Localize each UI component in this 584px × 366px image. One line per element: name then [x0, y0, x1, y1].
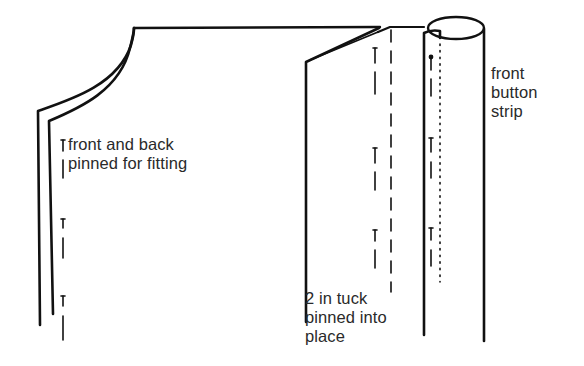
label-line: place: [305, 327, 387, 346]
strip-top-ellipse: [428, 17, 484, 39]
pin-icon: [61, 296, 65, 340]
pins-tuck: [373, 48, 377, 268]
label-front-back-pinned: front and back pinned for fitting: [68, 135, 187, 173]
label-line: 2 in tuck: [305, 289, 387, 308]
strip-left-edge: [424, 31, 440, 335]
tuck-fold-inner: [310, 32, 378, 60]
label-tuck-pinned: 2 in tuck pinned into place: [305, 289, 387, 346]
label-line: front: [491, 64, 537, 83]
sewing-diagram: [0, 0, 584, 366]
pins-strip: [429, 55, 433, 266]
label-line: pinned into: [305, 308, 387, 327]
pin-icon: [429, 228, 433, 266]
label-line: strip: [491, 102, 537, 121]
front-button-strip: [424, 17, 484, 341]
tuck-fold-outer: [306, 28, 379, 322]
pin-icon: [429, 138, 433, 178]
label-line: front and back: [68, 135, 187, 154]
panel-top-edge: [134, 27, 380, 28]
pin-icon: [373, 148, 377, 190]
pin-icon: [373, 48, 377, 94]
tuck-fold: [306, 27, 424, 322]
label-line: button: [491, 83, 537, 102]
label-line: pinned for fitting: [68, 154, 187, 173]
garment-panel-front-back: [38, 27, 380, 325]
label-front-button-strip: front button strip: [491, 64, 537, 121]
tuck-top-edge: [378, 27, 424, 32]
pin-icon: [429, 55, 432, 96]
pin-icon: [373, 230, 377, 268]
pin-icon: [61, 140, 65, 178]
pin-icon: [61, 219, 65, 258]
pins-front-back: [61, 140, 65, 340]
